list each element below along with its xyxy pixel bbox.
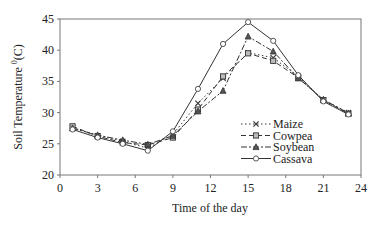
x-tick-label: 24 — [355, 181, 367, 195]
y-tick-label: 30 — [42, 106, 54, 120]
x-tick-label: 18 — [280, 181, 292, 195]
y-axis: 202530354045 — [42, 12, 60, 182]
y-tick-label: 40 — [42, 43, 54, 57]
x-tick-label: 12 — [205, 181, 217, 195]
y-tick-label: 20 — [42, 168, 54, 182]
x-tick-label: 21 — [317, 181, 329, 195]
y-tick-label: 45 — [42, 12, 54, 26]
x-axis-label: Time of the day — [172, 201, 248, 215]
legend-item-cassava: Cassava — [241, 152, 313, 166]
y-axis-label-main: Soil Temperature — [11, 64, 25, 150]
y-axis-label: Soil Temperature 0(C) — [10, 44, 25, 150]
y-axis-label-unit: (C) — [11, 44, 25, 60]
plot-frame — [60, 19, 361, 175]
legend-label: Cassava — [273, 152, 313, 166]
y-tick-label: 35 — [42, 74, 54, 88]
x-tick-label: 3 — [95, 181, 101, 195]
legend: MaizeCowpeaSoybeanCassava — [241, 117, 314, 166]
x-tick-label: 15 — [242, 181, 254, 195]
x-tick-label: 0 — [57, 181, 63, 195]
soil-temperature-chart: 202530354045 03691215182124 MaizeCowpeaS… — [0, 0, 376, 227]
x-tick-label: 9 — [170, 181, 176, 195]
y-tick-label: 25 — [42, 137, 54, 151]
x-tick-label: 6 — [132, 181, 138, 195]
x-axis: 03691215182124 — [57, 175, 367, 195]
